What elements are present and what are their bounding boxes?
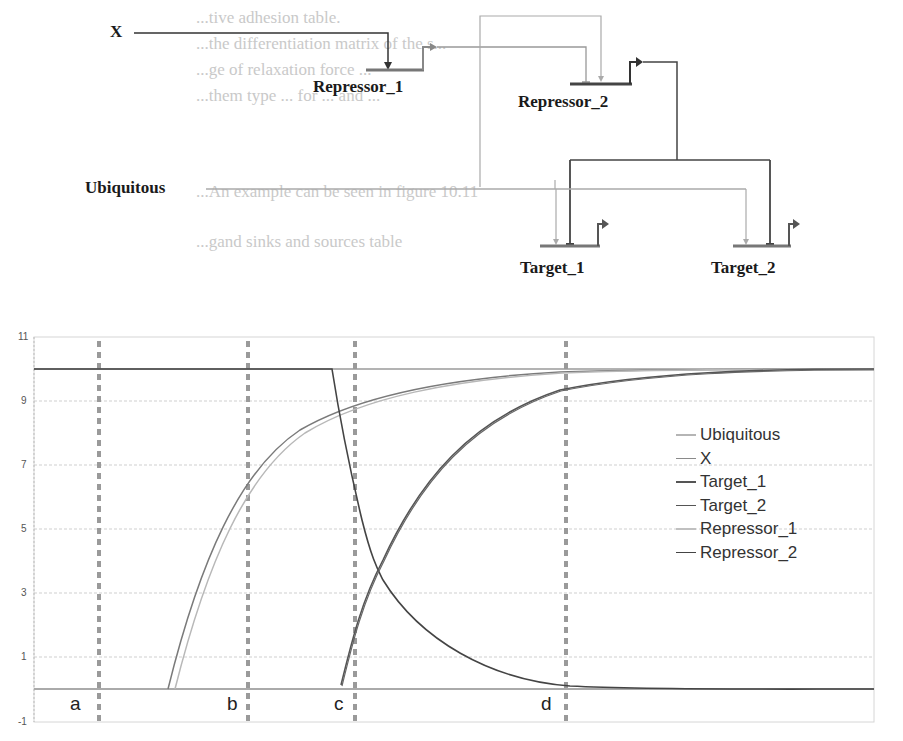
- legend-label: Target_2: [700, 494, 766, 518]
- plot-legend: Ubiquitous X Target_1 Target_2 Repressor…: [676, 423, 797, 564]
- legend-item-repressor1: Repressor_1: [676, 517, 797, 541]
- gene-label-target1: Target_1: [520, 258, 585, 278]
- gene-label-target2: Target_2: [711, 258, 776, 278]
- y-tick-label: 1: [21, 651, 27, 662]
- gene-label-repressor2: Repressor_2: [518, 92, 608, 112]
- legend-line-icon: [676, 528, 696, 530]
- legend-label: Repressor_1: [700, 517, 797, 541]
- legend-label: Repressor_2: [700, 541, 797, 565]
- legend-line-icon: [676, 552, 696, 554]
- legend-line-icon: [676, 505, 696, 507]
- gene-network-diagram: [0, 0, 903, 300]
- phase-markers: [99, 341, 566, 722]
- edge-repressor1-to-repressor2: [437, 47, 590, 82]
- edge-ubiquitous-to-targets: [206, 180, 749, 245]
- y-tick-label: 3: [21, 587, 27, 598]
- legend-item-x: X: [676, 447, 797, 471]
- gene-label-repressor1: Repressor_1: [313, 77, 403, 97]
- gene-target2: [733, 219, 800, 246]
- phase-label-a: a: [70, 693, 81, 715]
- legend-item-target2: Target_2: [676, 494, 797, 518]
- edge-repressor2-to-targets: [566, 62, 774, 244]
- legend-line-icon: [676, 481, 696, 483]
- legend-label: Target_1: [700, 470, 766, 494]
- gene-repressor1: [366, 43, 437, 70]
- y-tick-label: -1: [18, 716, 27, 727]
- legend-item-repressor2: Repressor_2: [676, 541, 797, 565]
- y-tick-label: 9: [21, 395, 27, 406]
- gene-label-ubiquitous: Ubiquitous: [85, 178, 165, 198]
- edge-x-to-repressor1: [134, 33, 392, 70]
- gene-repressor2: [570, 57, 643, 84]
- gene-label-x: X: [110, 22, 122, 42]
- gene-target1: [540, 219, 609, 246]
- legend-line-icon: [676, 434, 696, 436]
- phase-label-b: b: [227, 693, 238, 715]
- y-tick-label: 7: [21, 459, 27, 470]
- legend-item-ubiquitous: Ubiquitous: [676, 423, 797, 447]
- phase-label-d: d: [541, 693, 552, 715]
- legend-line-icon: [676, 458, 696, 460]
- y-tick-label: 5: [21, 523, 27, 534]
- legend-label: Ubiquitous: [700, 423, 780, 447]
- legend-label: X: [700, 447, 711, 471]
- y-tick-label: 11: [18, 331, 28, 342]
- phase-label-c: c: [334, 693, 344, 715]
- legend-item-target1: Target_1: [676, 470, 797, 494]
